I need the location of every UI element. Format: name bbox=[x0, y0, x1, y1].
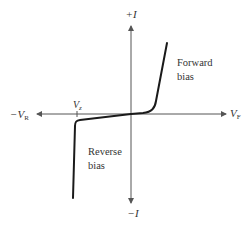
zener-label-sub: z bbox=[78, 104, 82, 112]
reverse-bias-label: Reverse bias bbox=[88, 146, 124, 171]
x-positive-label-sub: F bbox=[237, 113, 241, 121]
forward-bias-curve bbox=[131, 43, 167, 114]
x-negative-label: −VR bbox=[10, 108, 29, 122]
reverse-bias-line1: Reverse bbox=[88, 146, 122, 157]
forward-bias-line1: Forward bbox=[177, 57, 213, 68]
forward-bias-label: Forward bias bbox=[177, 57, 215, 82]
reverse-bias-line2: bias bbox=[88, 160, 105, 171]
x-positive-label: VF bbox=[230, 107, 241, 121]
iv-characteristic-diagram: +I −I −VR VF Vz Forward bias Reverse bia… bbox=[0, 0, 252, 226]
zener-voltage-label: Vz bbox=[73, 99, 82, 112]
y-positive-label: +I bbox=[125, 8, 137, 20]
forward-bias-line2: bias bbox=[177, 71, 194, 82]
x-negative-label-main: −V bbox=[10, 108, 25, 120]
y-negative-label: −I bbox=[127, 207, 139, 219]
x-negative-label-sub: R bbox=[24, 114, 29, 122]
